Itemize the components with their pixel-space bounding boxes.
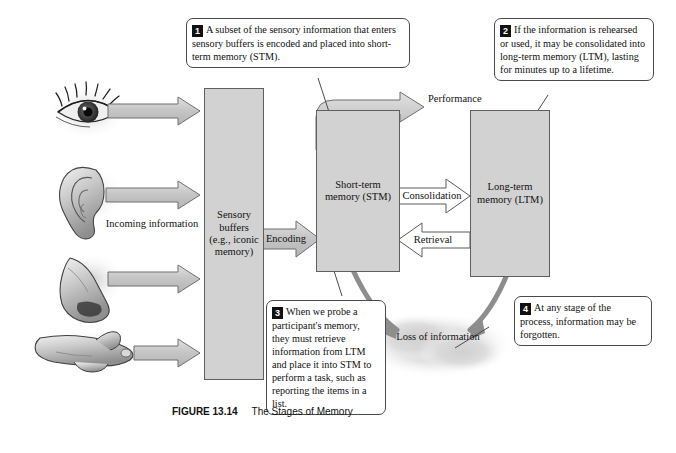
callout-2: 2If the information is rehearsed or used… xyxy=(494,18,654,81)
figure-canvas: Sensory buffers (e.g., iconic memory) Sh… xyxy=(0,0,676,453)
retrieval-label: Retrieval xyxy=(400,234,466,247)
callout-3: 3When we probe a participant's memory, t… xyxy=(266,300,386,415)
callout-4: 4At any stage of the process, informatio… xyxy=(514,296,652,346)
ear-icon xyxy=(60,167,105,239)
performance-label: Performance xyxy=(428,93,508,106)
callout-1-text: A subset of the sensory information that… xyxy=(192,24,396,62)
callout-2-text: If the information is rehearsed or used,… xyxy=(500,24,645,75)
arrow-ltm-to-loss xyxy=(470,272,508,330)
short-term-memory-label: Short-term memory (STM) xyxy=(317,179,399,204)
callout-4-text: At any stage of the process, information… xyxy=(520,302,636,340)
arrow-finger-to-buffer xyxy=(134,339,200,367)
callout-2-number: 2 xyxy=(500,25,511,37)
callout-3-number: 3 xyxy=(272,307,283,319)
finger-icon xyxy=(35,332,133,372)
consolidation-label: Consolidation xyxy=(396,190,468,203)
loss-of-information-label: Loss of information xyxy=(390,330,486,343)
callout-1-number: 1 xyxy=(192,25,203,37)
incoming-information-label: Incoming information xyxy=(104,218,200,231)
long-term-memory-label: Long-term memory (LTM) xyxy=(471,181,549,206)
sense-input-arrows xyxy=(106,97,200,367)
encoding-label: Encoding xyxy=(255,233,317,246)
callout-1: 1A subset of the sensory information tha… xyxy=(186,18,410,68)
arrow-eye-to-buffer xyxy=(108,97,200,125)
arrow-ear-to-buffer xyxy=(106,181,200,209)
nose-icon xyxy=(60,258,109,323)
callout-3-text: When we probe a participant's memory, th… xyxy=(272,306,371,409)
figure-caption: FIGURE 13.14The Stages of Memory xyxy=(172,406,353,417)
figure-caption-title: The Stages of Memory xyxy=(252,406,353,417)
eye-icon xyxy=(56,82,119,127)
arrow-nose-to-buffer xyxy=(108,265,200,293)
short-term-memory-box: Short-term memory (STM) xyxy=(316,110,400,272)
figure-caption-label: FIGURE 13.14 xyxy=(172,406,238,417)
long-term-memory-box: Long-term memory (LTM) xyxy=(470,110,550,277)
callout-4-number: 4 xyxy=(520,303,531,315)
